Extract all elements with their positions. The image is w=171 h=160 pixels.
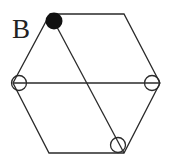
filled-node [46,13,63,30]
open-node-bottom [111,138,126,153]
diagram-label: B [12,14,30,44]
hexagon-diagram: B [0,0,171,160]
